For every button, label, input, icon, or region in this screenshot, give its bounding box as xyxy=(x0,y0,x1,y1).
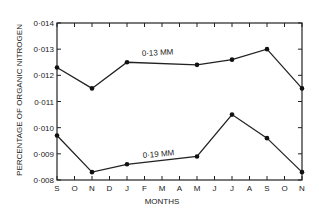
x-tick-label: J xyxy=(230,184,234,193)
data-point xyxy=(55,65,60,70)
x-tick-label: D xyxy=(107,184,113,193)
data-point xyxy=(55,133,60,138)
data-point xyxy=(300,86,305,91)
x-tick-label: O xyxy=(71,184,77,193)
x-axis-label: MONTHS xyxy=(145,197,180,206)
y-tick-label: 0·014 xyxy=(34,19,55,28)
data-point xyxy=(195,154,200,159)
x-tick-label: F xyxy=(142,184,147,193)
y-tick-label: 0·013 xyxy=(34,45,55,54)
x-tick-label: M xyxy=(194,184,201,193)
data-point xyxy=(125,60,130,65)
data-point xyxy=(125,162,130,167)
x-tick-label: S xyxy=(54,184,59,193)
x-tick-label: N xyxy=(89,184,95,193)
y-tick-label: 0·010 xyxy=(34,124,55,133)
series-lower xyxy=(55,112,305,174)
x-tick-label: A xyxy=(247,184,253,193)
y-axis-label: PERCENTAGE OF ORGANIC NITROGEN xyxy=(15,24,24,176)
x-tick-label: J xyxy=(125,184,129,193)
x-tick-label: O xyxy=(281,184,287,193)
data-point xyxy=(265,47,270,52)
x-tick-label: A xyxy=(177,184,183,193)
x-tick-label: N xyxy=(299,184,305,193)
series-upper xyxy=(55,47,305,91)
plot-frame xyxy=(57,23,302,180)
series-label-upper: 0·13 MM xyxy=(142,47,174,58)
data-point xyxy=(90,170,95,175)
y-tick-label: 0·011 xyxy=(34,98,54,107)
y-tick-label: 0·008 xyxy=(34,176,55,185)
data-point xyxy=(195,63,200,68)
x-tick-label: J xyxy=(213,184,217,193)
data-series xyxy=(55,47,305,175)
line-chart: 0·0080·0090·0100·0110·0120·0130·014 SOND… xyxy=(0,0,319,215)
x-tick-label: M xyxy=(159,184,166,193)
data-point xyxy=(230,112,235,117)
y-tick-label: 0·009 xyxy=(34,150,55,159)
data-point xyxy=(300,170,305,175)
data-point xyxy=(90,86,95,91)
data-point xyxy=(230,57,235,62)
series-label-lower: 0·19 MM xyxy=(142,148,175,160)
data-point xyxy=(265,136,270,141)
y-tick-label: 0·012 xyxy=(34,71,55,80)
x-tick-label: S xyxy=(264,184,269,193)
